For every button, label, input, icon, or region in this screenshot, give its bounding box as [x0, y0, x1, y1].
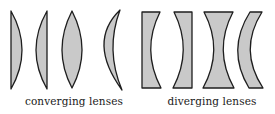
lens-diagram: converging lenses diverging lenses	[0, 0, 275, 114]
biconvex-lens	[62, 11, 82, 88]
plano-convex-lens-flat-left	[11, 11, 22, 89]
negative-meniscus-lens	[238, 12, 263, 88]
diverging-lenses-label: diverging lenses	[167, 95, 256, 107]
plano-concave-lens-flat-left	[142, 12, 161, 88]
plano-convex-lens-flat-right	[36, 11, 47, 89]
converging-lenses-label: converging lenses	[25, 95, 123, 107]
converging-lenses-group: converging lenses	[11, 10, 123, 107]
biconcave-lens	[203, 12, 234, 88]
diverging-lenses-group: diverging lenses	[142, 12, 263, 107]
positive-meniscus-lens	[104, 10, 122, 90]
plano-concave-lens-flat-right	[173, 12, 192, 88]
